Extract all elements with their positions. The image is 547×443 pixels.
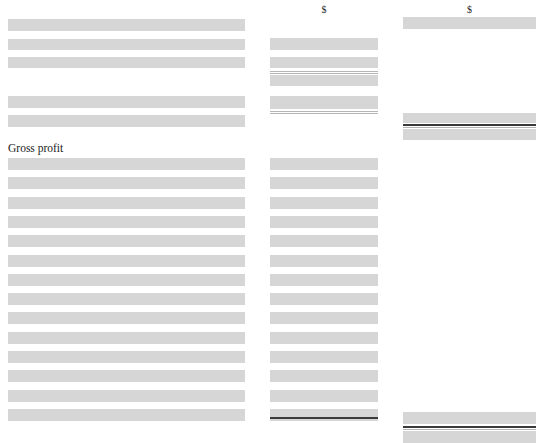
subtotal-rule (403, 124, 536, 126)
redacted-amount-cell (270, 293, 378, 305)
redacted-label-row (8, 96, 245, 108)
redacted-label-row (8, 197, 245, 209)
currency-header-amount-column-1: $ (270, 4, 378, 16)
redacted-amount-cell (270, 255, 378, 267)
redacted-label-row (8, 312, 245, 324)
redacted-amount-cell (270, 274, 378, 286)
redacted-amount-cell (270, 216, 378, 228)
subtotal-rule (403, 127, 536, 128)
subtotal-rule (270, 71, 378, 72)
redacted-label-row (8, 177, 245, 189)
redacted-label-row (8, 216, 245, 228)
redacted-amount-cell (270, 390, 378, 402)
redacted-label-row (8, 351, 245, 363)
redacted-amount-cell (403, 129, 536, 140)
redacted-amount-cell (270, 158, 378, 170)
redacted-label-row (8, 158, 245, 170)
redacted-label-row (8, 274, 245, 286)
redacted-amount-cell (270, 177, 378, 189)
redacted-label-row (8, 409, 245, 421)
redacted-label-row (8, 255, 245, 267)
redacted-label-row (8, 332, 245, 344)
subtotal-rule (270, 111, 378, 112)
redacted-label-row (8, 39, 245, 50)
redacted-label-row (8, 390, 245, 402)
grand-total-rule (403, 426, 536, 428)
redacted-amount-cell (270, 57, 378, 68)
gross-profit-label: Gross profit (8, 141, 63, 155)
subtotal-rule (270, 73, 378, 74)
redacted-amount-cell (403, 17, 536, 29)
redacted-amount-cell (270, 370, 378, 382)
redacted-amount-cell (270, 38, 378, 50)
redacted-amount-cell (403, 113, 536, 123)
redacted-amount-cell (270, 197, 378, 209)
grand-total-rule (403, 429, 536, 430)
redacted-amount-cell (403, 412, 536, 424)
document-page: $ $ Gross profit (0, 0, 547, 443)
redacted-label-row (8, 293, 245, 305)
redacted-amount-cell (270, 235, 378, 247)
redacted-amount-cell (270, 312, 378, 324)
currency-header-amount-column-2: $ (403, 4, 536, 16)
subtotal-rule (270, 113, 378, 114)
redacted-amount-cell (270, 409, 378, 421)
redacted-label-row (8, 57, 245, 68)
redacted-amount-cell (403, 431, 536, 443)
grand-total-rule (270, 417, 378, 419)
redacted-label-row (8, 370, 245, 382)
redacted-amount-cell (270, 96, 378, 109)
redacted-amount-cell (270, 351, 378, 363)
redacted-amount-cell (270, 332, 378, 344)
redacted-label-row (8, 235, 245, 247)
redacted-amount-cell (270, 75, 378, 86)
redacted-label-row (8, 19, 245, 31)
redacted-label-row (8, 115, 245, 127)
